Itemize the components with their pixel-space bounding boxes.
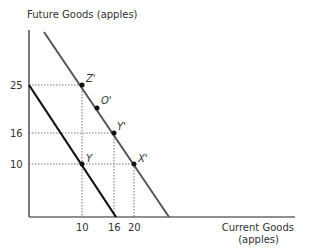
budget-line-chart: Z' O' Y' X' Y 25 16 10 10 16 20 Future G… <box>0 0 314 248</box>
label-y: Y <box>86 153 93 164</box>
x-axis-label-line1: Current Goods <box>222 222 294 233</box>
point-z-prime <box>80 83 85 88</box>
label-x-prime: X' <box>137 153 148 164</box>
y-tick-16: 16 <box>10 128 23 139</box>
y-axis-label: Future Goods (apples) <box>27 9 138 20</box>
y-tick-25: 25 <box>10 80 23 91</box>
x-tick-10: 10 <box>76 222 89 233</box>
point-y <box>80 162 85 167</box>
x-tick-20: 20 <box>128 222 141 233</box>
x-tick-16: 16 <box>108 222 121 233</box>
point-o-prime <box>95 106 100 111</box>
label-y-prime: Y' <box>117 121 126 132</box>
y-tick-10: 10 <box>10 159 23 170</box>
label-z-prime: Z' <box>85 73 96 84</box>
label-o-prime: O' <box>101 95 112 106</box>
point-y-prime <box>112 131 117 136</box>
x-axis-label-line2: (apples) <box>238 234 279 245</box>
shifted-budget-line <box>44 32 169 217</box>
guide-lines <box>29 85 134 217</box>
point-x-prime <box>132 162 137 167</box>
